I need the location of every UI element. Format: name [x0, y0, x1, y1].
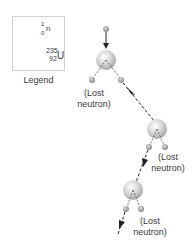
label-line: neutron) [144, 163, 192, 174]
uranium-mass-number: 235 [46, 47, 58, 54]
neutron-1 [118, 77, 124, 83]
uranium-symbol: U [57, 50, 64, 61]
lost-neutron-3 [138, 206, 144, 212]
neutron-mass-number: 1 [41, 21, 44, 27]
legend-box [12, 16, 65, 71]
neutron-2 [146, 144, 152, 150]
neutron-3 [123, 206, 129, 212]
lost-neutron-label-1: (Lost neutron) [70, 88, 118, 110]
incoming-neutron [103, 26, 109, 32]
legend-title: Legend [12, 75, 65, 85]
neutron-atomic-number: 0 [41, 30, 44, 36]
label-line: (Lost [144, 152, 192, 163]
uranium-atomic-number: 92 [49, 55, 57, 62]
lost-neutron-label-3: (Lost neutron) [126, 216, 174, 238]
lost-neutron-2 [162, 144, 168, 150]
lost-neutron-1 [89, 77, 95, 83]
label-line: neutron) [126, 227, 174, 238]
label-line: (Lost [70, 88, 118, 99]
label-line: (Lost [126, 216, 174, 227]
label-line: neutron) [70, 99, 118, 110]
neutron-symbol: n [46, 23, 50, 34]
lost-neutron-label-2: (Lost neutron) [144, 152, 192, 174]
chain-arrow-1 [123, 83, 155, 122]
